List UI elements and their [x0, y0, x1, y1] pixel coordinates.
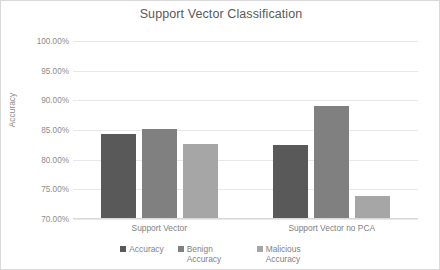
legend-swatch-icon — [178, 246, 184, 252]
y-axis-tick-label: 95.00% — [3, 66, 69, 75]
gridline — [73, 71, 418, 72]
legend-item[interactable]: Benign Accuracy — [178, 244, 243, 264]
x-axis-category-label: Support Vector no PCA — [246, 223, 419, 233]
legend-label: Benign Accuracy — [187, 244, 243, 264]
legend-label: Accuracy — [129, 244, 163, 254]
gridline — [73, 130, 418, 131]
gridline — [73, 41, 418, 42]
y-axis-tick-label: 70.00% — [3, 215, 69, 224]
y-axis-tick-label: 75.00% — [3, 185, 69, 194]
x-axis-line — [73, 218, 418, 219]
y-axis-tick-labels: 100.00%95.00%90.00%85.00%80.00%75.00%70.… — [1, 41, 69, 219]
y-axis-tick-label: 80.00% — [3, 155, 69, 164]
x-axis-category-label: Support Vector — [73, 223, 246, 233]
y-axis-tick-label: 90.00% — [3, 96, 69, 105]
chart-container: Support Vector Classification Accuracy 1… — [0, 0, 440, 270]
bar — [142, 129, 177, 219]
bar — [314, 106, 349, 219]
bar — [273, 145, 308, 219]
chart-title: Support Vector Classification — [1, 7, 440, 21]
gridline — [73, 100, 418, 101]
plot-area — [73, 41, 418, 219]
y-axis-tick-label: 85.00% — [3, 126, 69, 135]
bar — [355, 196, 390, 219]
legend-item[interactable]: Malicious Accuracy — [257, 244, 322, 264]
legend-label: Malicious Accuracy — [266, 244, 322, 264]
bar — [183, 144, 218, 219]
legend-swatch-icon — [120, 246, 126, 252]
legend-swatch-icon — [257, 246, 263, 252]
bar — [101, 134, 136, 219]
y-axis-tick-label: 100.00% — [3, 37, 69, 46]
gridline — [73, 219, 418, 220]
chart-legend: AccuracyBenign AccuracyMalicious Accurac… — [1, 244, 440, 264]
legend-item[interactable]: Accuracy — [120, 244, 163, 254]
